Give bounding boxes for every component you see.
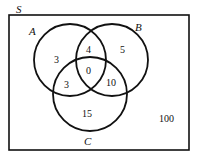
- region-outside: 100: [159, 113, 174, 124]
- region-a-c: 3: [64, 79, 69, 90]
- circle-a: [34, 24, 106, 96]
- region-b-c: 10: [106, 77, 116, 88]
- region-a-only: 3: [54, 54, 59, 65]
- universe-label: S: [16, 3, 22, 15]
- region-c-only: 15: [82, 108, 92, 119]
- region-a-b-c: 0: [86, 65, 91, 76]
- set-label-b: B: [135, 21, 142, 33]
- venn-diagram: S A B C 3 4 5 0 3 10 15 100: [0, 0, 197, 160]
- set-label-c: C: [84, 135, 92, 147]
- set-label-a: A: [28, 25, 36, 37]
- region-a-b: 4: [86, 44, 91, 55]
- region-b-only: 5: [120, 44, 125, 55]
